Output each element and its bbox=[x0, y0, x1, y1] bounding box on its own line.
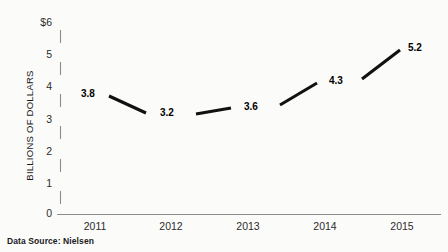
line-chart: BILLIONS OF DOLLARS $6 5 4 3 2 1 0 3.8 3… bbox=[0, 0, 448, 252]
x-tick-label-2014: 2014 bbox=[295, 220, 355, 232]
data-point-label-2012: 3.2 bbox=[160, 108, 174, 118]
plot-area bbox=[0, 0, 448, 252]
data-point-label-2014: 4.3 bbox=[329, 76, 343, 86]
data-source-note: Data Source: Nielsen bbox=[7, 236, 94, 246]
x-tick-label-2012: 2012 bbox=[141, 220, 201, 232]
x-tick-label-2011: 2011 bbox=[65, 220, 125, 232]
x-tick-label-2015: 2015 bbox=[372, 220, 432, 232]
data-point-label-2015: 5.2 bbox=[408, 43, 422, 53]
data-point-label-2013: 3.6 bbox=[244, 102, 258, 112]
data-point-label-2011: 3.8 bbox=[81, 89, 95, 99]
x-tick-label-2013: 2013 bbox=[218, 220, 278, 232]
